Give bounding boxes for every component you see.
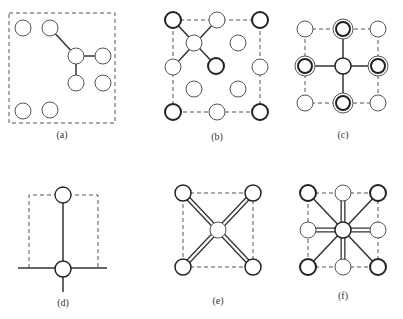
panel-a: (a) xyxy=(9,13,115,141)
atom xyxy=(245,185,261,201)
atom xyxy=(209,104,225,120)
atom-central xyxy=(335,58,351,74)
atom xyxy=(230,81,246,97)
panel-label: (e) xyxy=(212,295,223,307)
atom-bottom xyxy=(55,261,71,277)
atom-ringed xyxy=(298,59,312,73)
atom xyxy=(68,75,84,91)
atom-heavy xyxy=(252,12,268,28)
atom xyxy=(186,81,202,97)
panel-label: (b) xyxy=(211,131,223,143)
atom xyxy=(245,259,261,275)
panel-c: (c) xyxy=(295,19,388,141)
atom xyxy=(175,259,191,275)
atom-ringed xyxy=(336,96,350,110)
panel-label: (a) xyxy=(56,129,67,141)
atom-central xyxy=(335,222,351,238)
atom xyxy=(165,59,181,75)
atom xyxy=(335,259,351,275)
panel-label: (f) xyxy=(338,290,348,302)
panel-label: (c) xyxy=(337,129,348,141)
atom-ringed xyxy=(336,22,350,36)
panel-label: (d) xyxy=(57,297,69,309)
atom-central xyxy=(210,222,226,238)
atom xyxy=(95,75,111,91)
atom-central xyxy=(68,48,84,64)
atom-ringed xyxy=(371,59,385,73)
atom xyxy=(15,103,31,119)
atom xyxy=(230,35,246,51)
atom xyxy=(370,222,386,238)
atom xyxy=(370,95,386,111)
figure-canvas: (a) (b) (c) xyxy=(0,0,403,319)
atom xyxy=(252,59,268,75)
atom-top xyxy=(55,187,71,203)
atom-heavy xyxy=(370,259,386,275)
atom-heavy xyxy=(300,259,316,275)
atom xyxy=(95,48,111,64)
atom xyxy=(42,20,58,36)
atom-heavy xyxy=(252,104,268,120)
atom-heavy xyxy=(165,104,181,120)
atom xyxy=(335,185,351,201)
atom-central xyxy=(186,35,202,51)
atom xyxy=(297,95,313,111)
atom xyxy=(175,185,191,201)
atom xyxy=(300,222,316,238)
atom xyxy=(15,20,31,36)
atom xyxy=(209,12,225,28)
atom xyxy=(370,21,386,37)
panel-b: (b) xyxy=(165,12,268,143)
atom xyxy=(42,102,58,118)
panel-e: (e) xyxy=(175,185,261,307)
panel-f: (f) xyxy=(300,185,386,302)
atom-heavy xyxy=(300,185,316,201)
atom-heavy xyxy=(208,58,224,74)
atom xyxy=(297,21,313,37)
atom-heavy xyxy=(165,12,181,28)
panel-d: (d) xyxy=(18,187,107,309)
atom-heavy xyxy=(370,185,386,201)
